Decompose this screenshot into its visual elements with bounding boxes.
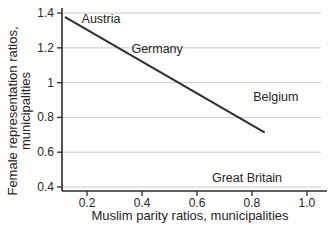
country-annotations: AustriaGermanyBelgiumGreat Britain [82,12,299,185]
y-axis-title: Female representation ratios, municipali… [5,26,33,195]
chart-figure: 0.40.60.811.21.40.20.40.60.81.0 AustriaG… [0,0,328,236]
y-tick-label-1: 1 [47,76,54,90]
y-tick-label-1.2: 1.2 [37,41,54,55]
y-tick-label-0.4: 0.4 [37,180,54,194]
tick-marks [57,13,307,196]
trend-line-layer [66,17,264,132]
trend-line [66,17,264,132]
annotation-great-britain: Great Britain [212,171,282,185]
y-tick-label-0.8: 0.8 [37,110,54,124]
line-chart: 0.40.60.811.21.40.20.40.60.81.0 AustriaG… [0,0,328,236]
annotation-belgium: Belgium [253,90,298,104]
x-axis-title: Muslim parity ratios, municipalities [91,208,289,223]
y-tick-label-1.4: 1.4 [37,6,54,20]
x-tick-label-1.0: 1.0 [299,196,316,210]
y-tick-label-0.6: 0.6 [37,145,54,159]
annotation-austria: Austria [82,12,121,26]
y-axis-title-line2: municipalities [18,71,33,150]
annotation-germany: Germany [131,42,183,56]
